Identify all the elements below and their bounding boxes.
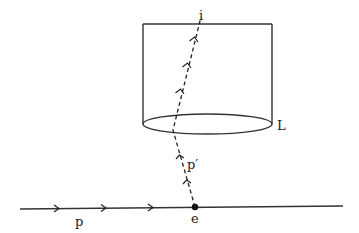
- diagram-canvas: i L p′ p e: [0, 0, 359, 233]
- label-p-prime: p′: [187, 157, 198, 172]
- arrow-icon: [183, 180, 191, 184]
- arrow-icon: [190, 37, 199, 42]
- label-L: L: [277, 118, 286, 133]
- scattered-particle-path: [173, 17, 201, 207]
- lens-cylinder: [143, 24, 272, 134]
- arrow-icon: [176, 155, 184, 159]
- label-p: p: [75, 214, 83, 229]
- incoming-particle-line: [20, 206, 343, 209]
- label-e: e: [191, 211, 199, 226]
- label-i: i: [199, 8, 203, 23]
- lens-ellipse: [143, 114, 272, 134]
